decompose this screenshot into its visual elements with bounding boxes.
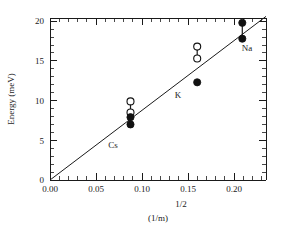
x-tick-label-0.00: 0.00: [42, 184, 58, 194]
data-point-filled: [239, 35, 246, 42]
right-axis-ticks: [259, 21, 266, 172]
top-axis-ticks: [59, 18, 261, 25]
x-axis-title-main: (1/m): [148, 213, 168, 223]
annotation-na: Na: [242, 43, 253, 53]
point-connectors: [131, 23, 243, 125]
open-circle-markers: [127, 43, 201, 116]
data-point-open: [194, 55, 201, 62]
data-point-filled: [127, 121, 134, 128]
y-tick-label-15: 15: [35, 56, 45, 66]
y-tick-labels: 0 5 10 15 20: [35, 16, 45, 185]
x-axis-title-exponent: 1/2: [175, 199, 187, 209]
y-tick-label-10: 10: [35, 96, 45, 106]
y-tick-label-20: 20: [35, 16, 45, 26]
annotation-cs: Cs: [108, 140, 118, 150]
x-tick-label-0.20: 0.20: [226, 184, 242, 194]
linear-fit-line: [50, 16, 266, 180]
data-point-filled: [127, 114, 134, 121]
x-axis-ticks: [50, 173, 262, 180]
chart-figure: 0 5 10 15 20 0.00 0.05 0.10 0.15 0.20 En…: [0, 0, 281, 234]
data-point-filled: [239, 19, 246, 26]
annotation-k: K: [175, 90, 182, 100]
filled-circle-markers: [127, 19, 246, 128]
data-point-open: [194, 43, 201, 50]
y-axis-title: Energy (meV): [6, 73, 16, 125]
data-point-filled: [194, 79, 201, 86]
energy-vs-inverse-mass-scatter-plot: 0 5 10 15 20 0.00 0.05 0.10 0.15 0.20 En…: [0, 0, 281, 234]
data-point-open: [127, 98, 134, 105]
x-tick-label-0.10: 0.10: [134, 184, 150, 194]
y-axis-ticks: [50, 21, 57, 180]
x-tick-labels: 0.00 0.05 0.10 0.15 0.20: [42, 184, 242, 194]
y-tick-label-5: 5: [40, 136, 45, 146]
x-tick-label-0.15: 0.15: [180, 184, 196, 194]
x-tick-label-0.05: 0.05: [88, 184, 104, 194]
